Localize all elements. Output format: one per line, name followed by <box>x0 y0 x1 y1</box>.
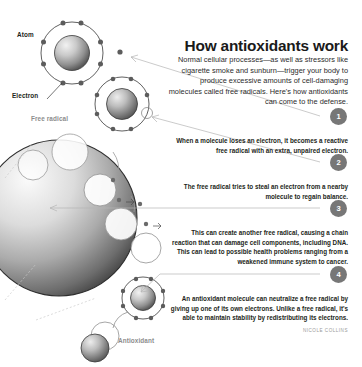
step-2-text: The free radical tries to steal an elect… <box>166 182 348 201</box>
step-1-text: When a molecule loses an electron, it be… <box>166 136 348 155</box>
label-antioxidant: Antioxidant <box>118 337 154 344</box>
credit-line: NICOLE COLLINS <box>166 328 348 333</box>
step-badge-2: 2 <box>330 154 347 171</box>
step-4-text: An antioxidant molecule can neutralize a… <box>166 294 348 322</box>
page-title: How antioxidants work <box>166 38 348 54</box>
cell-sphere <box>0 134 161 296</box>
step-badge-1: 1 <box>330 108 347 125</box>
free-radical-atom <box>95 77 153 132</box>
molecule-illustration <box>0 0 185 367</box>
step-badge-3: 3 <box>330 200 347 217</box>
intro-paragraph: Normal cellular processes—as well as str… <box>166 55 348 108</box>
label-electron: Electron <box>12 92 38 99</box>
step-badge-4: 4 <box>330 266 347 283</box>
detached-electron <box>117 49 122 54</box>
infographic-root: Atom Electron Free radical Antioxidant H… <box>0 0 362 367</box>
antioxidant-atom <box>121 277 165 320</box>
atom-top <box>41 21 103 86</box>
step-3-text: This can create another free radical, ca… <box>166 228 348 266</box>
label-free-radical: Free radical <box>31 115 68 122</box>
label-atom: Atom <box>17 31 34 38</box>
